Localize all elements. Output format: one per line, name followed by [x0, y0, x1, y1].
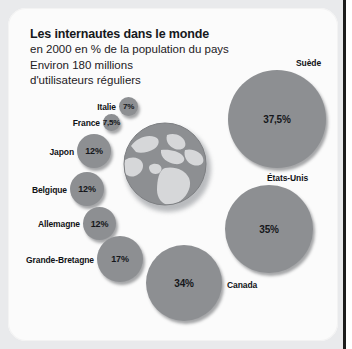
- bubble-italie[interactable]: 7%: [119, 97, 138, 116]
- bubble-grande-bretagne-label: Grande-Bretagne: [12, 255, 94, 265]
- bubble-france[interactable]: 7,5%: [103, 114, 120, 131]
- bubble-etats-unis[interactable]: 35%: [225, 185, 313, 273]
- bubble-belgique-label: Belgique: [16, 185, 67, 195]
- bubble-grande-bretagne-value: 17%: [111, 254, 128, 264]
- bubble-allemagne[interactable]: 12%: [83, 207, 116, 240]
- infographic-page: Les internautes dans le monde en 2000 en…: [0, 0, 352, 349]
- globe-graphic: [121, 120, 211, 210]
- bubble-suede-value: 37,5%: [263, 114, 290, 125]
- bubble-italie-label: Italie: [66, 102, 116, 112]
- bubble-etats-unis-label: États-Unis: [267, 173, 308, 183]
- bubble-etats-unis-value: 35%: [259, 224, 278, 235]
- bubble-japon-label: Japon: [26, 147, 74, 157]
- infographic-card: Les internautes dans le monde en 2000 en…: [8, 8, 338, 341]
- globe-icon: [121, 120, 211, 210]
- bubble-france-value: 7,5%: [103, 118, 120, 127]
- bubble-canada-label: Canada: [227, 280, 257, 290]
- bubble-belgique[interactable]: 12%: [70, 172, 104, 206]
- bubble-allemagne-value: 12%: [91, 219, 108, 229]
- bubble-japon-value: 12%: [85, 146, 102, 156]
- page-gutter-margin: [346, 0, 352, 349]
- bubble-grande-bretagne[interactable]: 17%: [97, 236, 143, 282]
- bubble-canada-value: 34%: [174, 278, 193, 289]
- subtitle-line-2: Environ 180 millions: [30, 58, 290, 74]
- bubble-suede-label: Suède: [296, 58, 321, 68]
- bubble-allemagne-label: Allemagne: [22, 219, 80, 229]
- bubble-suede[interactable]: 37,5%: [228, 70, 326, 168]
- bubble-france-label: France: [50, 118, 100, 128]
- subtitle-line-1: en 2000 en % de la population du pays: [30, 42, 290, 58]
- bubble-japon[interactable]: 12%: [77, 134, 111, 168]
- bubble-belgique-value: 12%: [78, 184, 95, 194]
- bubble-canada[interactable]: 34%: [146, 245, 222, 321]
- bubble-italie-value: 7%: [123, 102, 134, 111]
- page-title: Les internautes dans le monde: [30, 26, 290, 42]
